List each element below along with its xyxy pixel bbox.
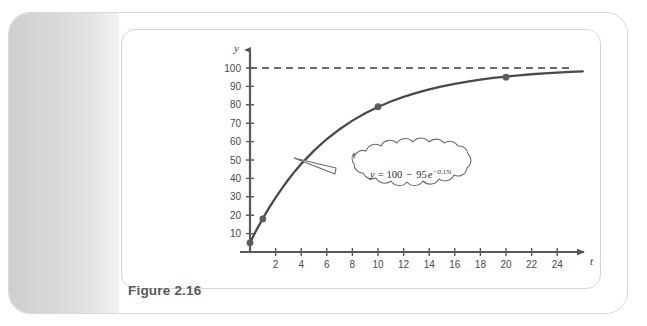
- y-tick-label: 10: [230, 228, 242, 239]
- decorative-gradient-strip: [9, 13, 119, 313]
- x-tick-label: 12: [398, 259, 410, 270]
- x-axis-tick-labels: 2 4 6 8 10 12 14 16 18 20 22 24: [273, 259, 563, 270]
- chart-panel: y t 100 90: [121, 29, 601, 289]
- x-tick-label: 24: [552, 259, 564, 270]
- exponential-growth-chart: y t 100 90: [122, 30, 600, 288]
- data-point-marker: [503, 74, 510, 81]
- y-tick-label: 80: [230, 99, 242, 110]
- data-point-marker: [375, 103, 382, 110]
- y-tick-label: 100: [224, 63, 241, 74]
- y-tick-label: 20: [230, 210, 242, 221]
- y-tick-label: 40: [230, 173, 242, 184]
- y-tick-label: 30: [230, 191, 242, 202]
- y-tick-label: 50: [230, 155, 242, 166]
- x-tick-label: 2: [273, 259, 279, 270]
- x-tick-label: 8: [350, 259, 356, 270]
- x-tick-label: 20: [500, 259, 512, 270]
- x-tick-label: 6: [324, 259, 330, 270]
- equation-exponent: −0.15t: [432, 168, 452, 176]
- data-point-marker: [247, 239, 254, 246]
- y-tick-label: 60: [230, 136, 242, 147]
- equation-constant: 100: [387, 169, 403, 180]
- x-axis-label: t: [590, 255, 594, 267]
- x-tick-label: 4: [298, 259, 304, 270]
- figure-caption: Figure 2.16: [128, 283, 201, 298]
- x-tick-label: 22: [526, 259, 538, 270]
- x-tick-label: 18: [475, 259, 487, 270]
- equation-coefficient: 95: [416, 169, 427, 180]
- x-tick-label: 10: [372, 259, 384, 270]
- data-point-marker: [259, 215, 266, 222]
- equation-lhs: y: [369, 169, 375, 180]
- x-tick-label: 16: [449, 259, 461, 270]
- figure-container: y t 100 90: [0, 0, 647, 326]
- y-axis-tick-labels: 100 90 80 70 60 50 40 30 20 10: [224, 63, 241, 240]
- equation-minus: −: [406, 169, 412, 180]
- y-tick-label: 90: [230, 81, 242, 92]
- figure-outer-card: y t 100 90: [8, 12, 628, 314]
- y-tick-label: 70: [230, 118, 242, 129]
- equation-equals: =: [378, 169, 384, 180]
- x-tick-label: 14: [424, 259, 436, 270]
- y-axis-label: y: [233, 42, 239, 54]
